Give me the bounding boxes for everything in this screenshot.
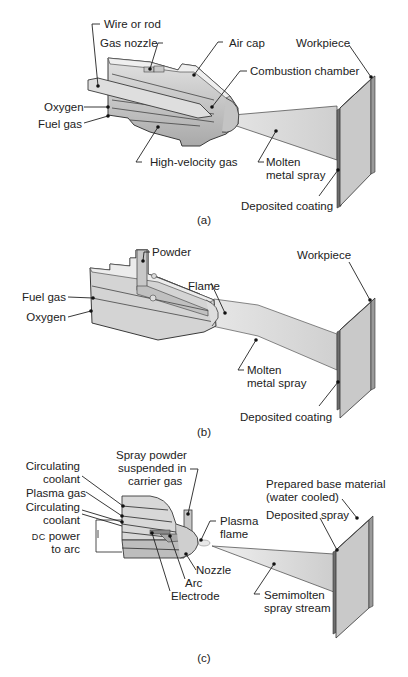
label-wire-or-rod: Wire or rod (104, 18, 161, 31)
label-nozzle: Nozzle (196, 564, 231, 577)
panel-a-wire-flame-spray: Wire or rod Gas nozzle Air cap Workpiece… (0, 0, 408, 228)
label-spray-powder-line1: Spray powder (116, 449, 187, 462)
label-fuel-gas: Fuel gas (10, 291, 66, 304)
label-workpiece: Workpiece (297, 249, 351, 262)
label-fuel-gas: Fuel gas (36, 118, 82, 131)
label-plasma-flame-line1: Plasma (220, 515, 258, 528)
label-deposited-coating: Deposited coating (240, 411, 332, 424)
label-circulating-coolant-2-line2: coolant (14, 514, 80, 527)
label-oxygen: Oxygen (10, 311, 66, 324)
caption-b: (b) (0, 426, 408, 438)
label-molten-line2: metal spray (247, 377, 306, 390)
label-dc-power-suffix: power (45, 530, 80, 542)
label-prepared-base-line1: Prepared base material (266, 478, 386, 491)
label-circulating-coolant-1-line2: coolant (14, 473, 80, 486)
label-arc: Arc (185, 577, 202, 590)
label-flame: Flame (188, 280, 220, 293)
label-high-velocity-gas: High-velocity gas (150, 156, 238, 169)
label-dc-prefix: DC (32, 532, 46, 542)
label-prepared-base-line2: (water cooled) (266, 491, 339, 504)
label-deposited-coating: Deposited coating (241, 200, 333, 213)
panel-b-powder-flame-spray: Powder Workpiece Fuel gas Flame Oxygen M… (0, 228, 408, 438)
label-dc-power: DC power (14, 530, 80, 544)
label-dc-power-line2: to arc (14, 543, 80, 556)
panel-c-plasma-arc-spray: Spray powder suspended in carrier gas Ci… (0, 440, 408, 677)
label-plasma-gas: Plasma gas (10, 487, 86, 500)
wire-flame-spray-gun-illustration (0, 0, 408, 228)
label-molten-line1: Molten (266, 156, 301, 169)
label-electrode: Electrode (171, 590, 220, 603)
label-molten-line1: Molten (247, 364, 282, 377)
label-combustion-chamber: Combustion chamber (250, 65, 359, 78)
label-air-cap: Air cap (229, 37, 265, 50)
label-circulating-coolant-1-line1: Circulating (14, 460, 80, 473)
label-spray-powder-line3: carrier gas (128, 475, 182, 488)
label-workpiece: Workpiece (296, 37, 350, 50)
label-deposited-spray: Deposited spray (266, 509, 349, 522)
label-gas-nozzle: Gas nozzle (100, 37, 158, 50)
label-molten-line2: metal spray (266, 169, 325, 182)
caption-c: (c) (0, 652, 408, 664)
label-oxygen: Oxygen (44, 101, 82, 114)
label-semimolten-line1: Semimolten (264, 589, 325, 602)
label-spray-powder-line2: suspended in (118, 462, 186, 475)
label-plasma-flame-line2: flame (220, 528, 248, 541)
label-semimolten-line2: spray stream (264, 602, 330, 615)
label-powder: Powder (152, 246, 191, 259)
label-circulating-coolant-2-line1: Circulating (14, 501, 80, 514)
caption-a: (a) (0, 214, 408, 226)
